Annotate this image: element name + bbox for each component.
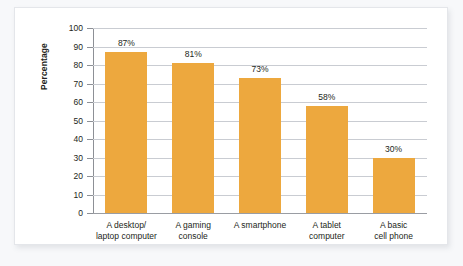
y-tick-label: 70 — [59, 80, 83, 89]
y-tick-label: 40 — [59, 135, 83, 144]
bar-value-label: 30% — [364, 145, 424, 154]
y-tick-mark — [87, 47, 93, 48]
y-tick-label: 60 — [59, 98, 83, 107]
y-tick-mark — [87, 139, 93, 140]
y-tick-mark — [87, 176, 93, 177]
y-tick-label: 50 — [59, 117, 83, 126]
gridline — [93, 28, 427, 29]
bar — [172, 63, 214, 213]
bar — [373, 158, 415, 214]
bar — [239, 78, 281, 213]
y-tick-mark — [87, 102, 93, 103]
y-tick-mark — [87, 213, 93, 214]
x-category-label: A desktop/ laptop computer — [90, 220, 162, 241]
x-category-label: A tablet computer — [291, 220, 363, 241]
y-tick-label: 90 — [59, 43, 83, 52]
figure-root: Percentage 1009080706050403020100 87%81%… — [0, 0, 463, 266]
bar — [105, 52, 147, 213]
y-axis-title: Percentage — [39, 43, 49, 90]
y-tick-mark — [87, 65, 93, 66]
y-tick-label: 30 — [59, 154, 83, 163]
y-tick-label: 20 — [59, 172, 83, 181]
axis-baseline — [93, 213, 427, 214]
y-tick-mark — [87, 158, 93, 159]
y-tick-mark — [87, 84, 93, 85]
y-tick-mark — [87, 195, 93, 196]
y-tick-mark — [87, 121, 93, 122]
y-tick-label: 100 — [59, 24, 83, 33]
bar — [306, 106, 348, 213]
x-category-label: A basic cell phone — [358, 220, 430, 241]
chart-panel: Percentage 1009080706050403020100 87%81%… — [14, 7, 448, 245]
plot-area — [93, 28, 427, 213]
y-tick-label: 0 — [59, 209, 83, 218]
x-category-label: A smartphone — [224, 220, 296, 231]
bar-value-label: 81% — [163, 50, 223, 59]
y-tick-label-group: 1009080706050403020100 — [59, 8, 83, 266]
y-tick-mark — [87, 28, 93, 29]
bar-value-label: 58% — [297, 93, 357, 102]
x-category-label: A gaming console — [157, 220, 229, 241]
y-tick-label: 10 — [59, 191, 83, 200]
bar-value-label: 87% — [96, 39, 156, 48]
bar-value-label: 73% — [230, 65, 290, 74]
y-tick-label: 80 — [59, 61, 83, 70]
